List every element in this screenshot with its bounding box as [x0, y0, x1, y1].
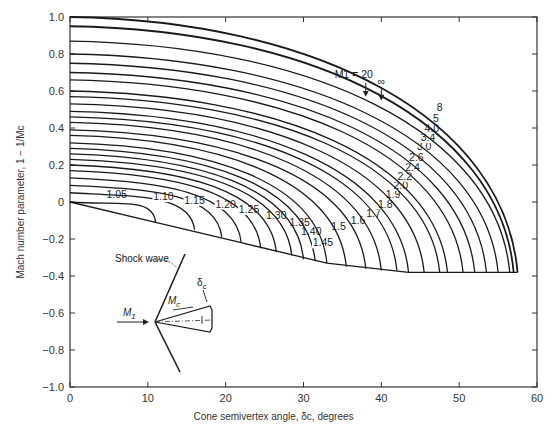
infinity-annotation: ∞ — [378, 75, 386, 87]
cone-inset-diagram: Shock waveM1Mcδc — [115, 253, 213, 372]
y-tick-label: −0.4 — [42, 270, 64, 282]
x-tick-label: 40 — [375, 392, 387, 404]
cone-flow-chart: 01020304050601.00.80.60.40.20−0.2−0.4−0.… — [0, 0, 554, 424]
cone-angle-label: δc — [197, 277, 207, 291]
m1-annotation: M1 = 20 — [335, 68, 373, 80]
x-tick-label: 20 — [220, 392, 232, 404]
x-tick-label: 50 — [453, 392, 465, 404]
y-tick-label: 0.4 — [49, 122, 64, 134]
curve-label: 2.6 — [409, 151, 424, 163]
y-tick-label: 0.8 — [49, 48, 64, 60]
arrowhead — [143, 319, 149, 325]
y-tick-label: 0 — [58, 196, 64, 208]
y-tick-label: 0.2 — [49, 159, 64, 171]
x-tick-label: 60 — [531, 392, 543, 404]
y-tick-label: −0.8 — [42, 344, 64, 356]
shock-wave-label: Shock wave — [115, 253, 169, 264]
mach-curve — [70, 154, 304, 259]
shock-wave-upper — [155, 254, 185, 322]
x-tick-label: 0 — [67, 392, 73, 404]
arrowhead — [363, 91, 369, 97]
y-axis-title: Mach number parameter, 1 − 1/Mc — [15, 125, 26, 278]
cone-mach-label: Mc — [168, 295, 180, 309]
x-tick-label: 30 — [297, 392, 309, 404]
x-tick-label: 10 — [142, 392, 154, 404]
chart-container: 01020304050601.00.80.60.40.20−0.2−0.4−0.… — [0, 0, 554, 424]
x-axis-title: Cone semivertex angle, δc, degrees — [193, 411, 353, 422]
y-tick-label: −1.0 — [42, 381, 64, 393]
curve-label: 8 — [437, 101, 443, 113]
freestream-mach-label: M1 — [123, 307, 136, 321]
y-tick-label: −0.2 — [42, 233, 64, 245]
y-tick-label: −0.6 — [42, 307, 64, 319]
plot-frame — [70, 17, 537, 387]
mach-curve — [70, 193, 195, 230]
curve-label: 1.15 — [184, 194, 205, 206]
cone-shape — [155, 306, 212, 332]
y-tick-label: 0.6 — [49, 85, 64, 97]
shock-wave-lower — [155, 322, 180, 372]
y-tick-label: 1.0 — [49, 11, 64, 23]
angle-pointer — [203, 290, 207, 302]
